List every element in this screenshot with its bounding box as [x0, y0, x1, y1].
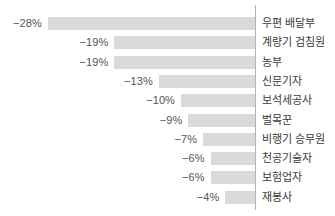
bar: [114, 36, 255, 49]
bar-row: −10%보석세공사: [0, 91, 335, 110]
bar-row: −13%신문기자: [0, 72, 335, 91]
bar-row: −6%보험업자: [0, 168, 335, 187]
bar-value-label: −28%: [13, 14, 42, 33]
bar-category-label: 농부: [262, 53, 282, 72]
bar-category-label: 비행기 승무원: [262, 130, 325, 149]
bar-value-label: −10%: [146, 91, 175, 110]
bar: [211, 152, 255, 165]
bar: [225, 191, 255, 204]
bar-row: −6%천공기술자: [0, 149, 335, 168]
bar: [211, 171, 255, 184]
bar-value-label: −19%: [80, 33, 109, 52]
bar-value-label: −6%: [182, 149, 205, 168]
bar-row: −4%재봉사: [0, 188, 335, 207]
bar-row: −19%농부: [0, 53, 335, 72]
bar-value-label: −19%: [80, 53, 109, 72]
bar-row: −19%계량기 검침원: [0, 33, 335, 52]
bar-value-label: −4%: [197, 188, 220, 207]
bar: [159, 75, 255, 88]
bar-row: −7%비행기 승무원: [0, 130, 335, 149]
bar-value-label: −13%: [124, 72, 153, 91]
bar-category-label: 신문기자: [262, 72, 302, 91]
bar-value-label: −7%: [175, 130, 198, 149]
bar: [203, 133, 255, 146]
bar-category-label: 재봉사: [262, 188, 292, 207]
bar: [114, 56, 255, 69]
bar-category-label: 보험업자: [262, 168, 302, 187]
bar-category-label: 우편 배달부: [262, 14, 315, 33]
bar: [181, 94, 255, 107]
bar-category-label: 보석세공사: [262, 91, 312, 110]
bar-chart: −28%우편 배달부−19%계량기 검침원−19%농부−13%신문기자−10%보…: [0, 0, 335, 216]
bar-category-label: 천공기술자: [262, 149, 312, 168]
bar-category-label: 벌목꾼: [262, 111, 292, 130]
bar-row: −9%벌목꾼: [0, 111, 335, 130]
bar-category-label: 계량기 검침원: [262, 33, 325, 52]
bar-value-label: −6%: [182, 168, 205, 187]
bar: [48, 17, 255, 30]
bar-row: −28%우편 배달부: [0, 14, 335, 33]
bar-value-label: −9%: [160, 111, 183, 130]
bar: [188, 114, 255, 127]
